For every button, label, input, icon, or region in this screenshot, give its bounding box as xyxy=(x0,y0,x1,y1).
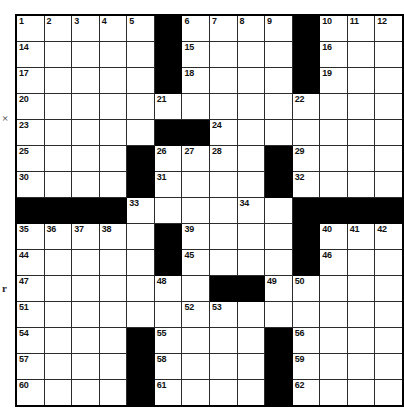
crossword-cell[interactable]: 60 xyxy=(16,380,44,407)
crossword-cell[interactable]: 2 xyxy=(44,15,72,42)
crossword-cell[interactable]: 36 xyxy=(44,224,72,250)
crossword-cell[interactable] xyxy=(320,328,348,354)
crossword-cell[interactable] xyxy=(347,354,375,380)
crossword-cell[interactable]: 42 xyxy=(375,224,403,250)
crossword-cell[interactable] xyxy=(375,94,403,120)
crossword-cell[interactable] xyxy=(320,146,348,172)
crossword-cell[interactable] xyxy=(72,380,100,407)
crossword-cell[interactable] xyxy=(265,120,293,146)
crossword-cell[interactable] xyxy=(99,146,127,172)
crossword-cell[interactable] xyxy=(44,354,72,380)
crossword-cell[interactable] xyxy=(237,68,265,94)
crossword-cell[interactable] xyxy=(182,354,210,380)
crossword-cell[interactable] xyxy=(182,276,210,302)
crossword-cell[interactable] xyxy=(209,354,237,380)
crossword-cell[interactable] xyxy=(347,42,375,68)
crossword-cell[interactable]: 49 xyxy=(265,276,293,302)
crossword-cell[interactable] xyxy=(99,250,127,276)
crossword-cell[interactable] xyxy=(320,94,348,120)
crossword-cell[interactable] xyxy=(237,380,265,407)
crossword-cell[interactable] xyxy=(72,42,100,68)
crossword-cell[interactable] xyxy=(320,380,348,407)
crossword-cell[interactable]: 17 xyxy=(16,68,44,94)
crossword-cell[interactable]: 32 xyxy=(292,172,320,198)
crossword-cell[interactable]: 61 xyxy=(154,380,182,407)
crossword-cell[interactable]: 19 xyxy=(320,68,348,94)
crossword-cell[interactable]: 9 xyxy=(265,15,293,42)
crossword-cell[interactable] xyxy=(375,172,403,198)
crossword-cell[interactable]: 57 xyxy=(16,354,44,380)
crossword-cell[interactable] xyxy=(127,224,155,250)
crossword-cell[interactable] xyxy=(99,120,127,146)
crossword-cell[interactable] xyxy=(72,250,100,276)
crossword-cell[interactable]: 44 xyxy=(16,250,44,276)
crossword-cell[interactable] xyxy=(237,42,265,68)
crossword-cell[interactable] xyxy=(265,250,293,276)
crossword-cell[interactable] xyxy=(320,354,348,380)
crossword-cell[interactable]: 35 xyxy=(16,224,44,250)
crossword-cell[interactable] xyxy=(72,302,100,328)
crossword-cell[interactable] xyxy=(265,68,293,94)
crossword-cell[interactable]: 41 xyxy=(347,224,375,250)
crossword-cell[interactable]: 6 xyxy=(182,15,210,42)
crossword-cell[interactable] xyxy=(292,302,320,328)
crossword-cell[interactable]: 16 xyxy=(320,42,348,68)
crossword-cell[interactable] xyxy=(72,68,100,94)
crossword-cell[interactable] xyxy=(182,380,210,407)
crossword-cell[interactable] xyxy=(209,224,237,250)
crossword-cell[interactable] xyxy=(209,172,237,198)
crossword-cell[interactable] xyxy=(375,120,403,146)
crossword-cell[interactable] xyxy=(99,380,127,407)
crossword-cell[interactable] xyxy=(209,380,237,407)
crossword-cell[interactable] xyxy=(265,94,293,120)
crossword-cell[interactable] xyxy=(127,276,155,302)
crossword-cell[interactable]: 47 xyxy=(16,276,44,302)
crossword-cell[interactable]: 33 xyxy=(127,198,155,224)
crossword-cell[interactable] xyxy=(375,250,403,276)
crossword-cell[interactable] xyxy=(127,94,155,120)
crossword-cell[interactable] xyxy=(209,198,237,224)
crossword-cell[interactable]: 31 xyxy=(154,172,182,198)
crossword-cell[interactable]: 22 xyxy=(292,94,320,120)
crossword-cell[interactable]: 28 xyxy=(209,146,237,172)
crossword-cell[interactable] xyxy=(154,198,182,224)
crossword-cell[interactable]: 29 xyxy=(292,146,320,172)
crossword-cell[interactable] xyxy=(375,42,403,68)
crossword-cell[interactable]: 45 xyxy=(182,250,210,276)
crossword-cell[interactable]: 50 xyxy=(292,276,320,302)
crossword-cell[interactable]: 55 xyxy=(154,328,182,354)
crossword-cell[interactable]: 23 xyxy=(16,120,44,146)
crossword-cell[interactable] xyxy=(72,328,100,354)
crossword-cell[interactable] xyxy=(237,250,265,276)
crossword-cell[interactable] xyxy=(237,224,265,250)
crossword-cell[interactable]: 38 xyxy=(99,224,127,250)
crossword-cell[interactable]: 7 xyxy=(209,15,237,42)
crossword-cell[interactable]: 8 xyxy=(237,15,265,42)
crossword-cell[interactable] xyxy=(237,172,265,198)
crossword-cell[interactable] xyxy=(320,302,348,328)
crossword-cell[interactable]: 39 xyxy=(182,224,210,250)
crossword-cell[interactable] xyxy=(347,276,375,302)
crossword-cell[interactable] xyxy=(72,146,100,172)
crossword-cell[interactable]: 52 xyxy=(182,302,210,328)
crossword-cell[interactable]: 48 xyxy=(154,276,182,302)
crossword-cell[interactable] xyxy=(237,94,265,120)
crossword-cell[interactable]: 1 xyxy=(16,15,44,42)
crossword-cell[interactable] xyxy=(72,94,100,120)
crossword-cell[interactable]: 59 xyxy=(292,354,320,380)
crossword-cell[interactable] xyxy=(182,94,210,120)
crossword-cell[interactable]: 30 xyxy=(16,172,44,198)
crossword-cell[interactable] xyxy=(44,120,72,146)
crossword-cell[interactable] xyxy=(99,68,127,94)
crossword-cell[interactable] xyxy=(320,120,348,146)
crossword-cell[interactable] xyxy=(320,172,348,198)
crossword-cell[interactable]: 58 xyxy=(154,354,182,380)
crossword-cell[interactable] xyxy=(44,302,72,328)
crossword-cell[interactable] xyxy=(72,120,100,146)
crossword-cell[interactable] xyxy=(99,302,127,328)
crossword-cell[interactable] xyxy=(237,354,265,380)
crossword-cell[interactable]: 34 xyxy=(237,198,265,224)
crossword-cell[interactable]: 3 xyxy=(72,15,100,42)
crossword-cell[interactable]: 56 xyxy=(292,328,320,354)
crossword-cell[interactable]: 15 xyxy=(182,42,210,68)
